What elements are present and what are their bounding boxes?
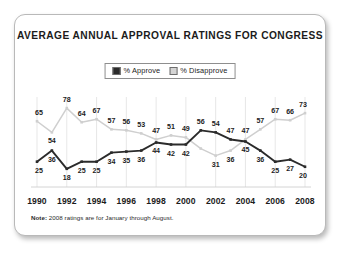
legend-item-approve: % Approve	[113, 66, 161, 75]
value-label: 56	[122, 118, 130, 126]
x-axis-tick-label: 2008	[295, 196, 315, 206]
value-label: 66	[286, 108, 294, 116]
data-point-marker	[125, 150, 128, 153]
data-point-marker	[125, 129, 128, 132]
value-label: 36	[256, 156, 264, 164]
value-label: 20	[299, 172, 307, 180]
value-label: 42	[167, 150, 175, 158]
data-point-marker	[170, 143, 173, 146]
data-point-marker	[140, 132, 143, 135]
data-point-marker	[199, 147, 202, 150]
data-point-marker	[36, 160, 39, 163]
legend-swatch-disapprove	[169, 67, 177, 75]
value-label: 64	[78, 110, 86, 118]
x-axis-tick-label: 1996	[117, 196, 137, 206]
data-point-marker	[140, 149, 143, 152]
value-label: 27	[286, 165, 294, 173]
data-point-marker	[274, 160, 277, 163]
value-label: 31	[212, 161, 220, 169]
value-label: 25	[78, 167, 86, 175]
value-label: 67	[271, 107, 279, 115]
data-point-marker	[304, 165, 307, 168]
data-point-marker	[95, 118, 98, 121]
data-point-marker	[110, 151, 113, 154]
value-label: 44	[152, 147, 160, 155]
data-point-marker	[274, 118, 277, 121]
value-label: 57	[107, 117, 115, 125]
screenshot-root: AVERAGE ANNUAL APPROVAL RATINGS FOR CONG…	[0, 0, 342, 255]
footnote-prefix: Note:	[31, 214, 47, 221]
value-label: 35	[122, 157, 130, 165]
data-point-marker	[65, 167, 68, 170]
data-point-marker	[155, 138, 158, 141]
data-point-marker	[229, 138, 232, 141]
x-axis-tick-label: 2006	[265, 196, 285, 206]
value-label: 42	[182, 150, 190, 158]
value-label: 25	[35, 167, 43, 175]
value-label: 73	[299, 101, 307, 109]
x-axis-tick-label: 1998	[146, 196, 166, 206]
x-axis-tick-label: 1992	[57, 196, 77, 206]
x-axis-tick-label: 1990	[27, 196, 47, 206]
data-point-marker	[95, 160, 98, 163]
data-point-marker	[259, 128, 262, 131]
value-label: 53	[137, 121, 145, 129]
value-label: 18	[63, 174, 71, 182]
value-label: 47	[152, 127, 160, 135]
value-label: 54	[212, 120, 220, 128]
value-label: 36	[137, 156, 145, 164]
data-point-marker	[289, 119, 292, 122]
value-label: 49	[182, 125, 190, 133]
value-label: 67	[93, 107, 101, 115]
data-point-marker	[199, 129, 202, 132]
data-point-marker	[214, 131, 217, 134]
data-point-marker	[65, 107, 68, 110]
x-axis-tick-label: 1994	[87, 196, 107, 206]
data-point-marker	[80, 121, 83, 124]
data-point-marker	[170, 134, 173, 137]
value-label: 36	[227, 156, 235, 164]
data-point-marker	[36, 120, 39, 123]
data-point-marker	[244, 140, 247, 143]
data-point-marker	[80, 160, 83, 163]
legend-item-disapprove: % Disapprove	[169, 66, 227, 75]
value-label: 25	[93, 167, 101, 175]
value-label: 51	[167, 123, 175, 131]
data-point-marker	[289, 158, 292, 161]
legend-label-disapprove: % Disapprove	[180, 66, 227, 75]
x-axis-tick-label: 2000	[176, 196, 196, 206]
data-point-marker	[304, 112, 307, 115]
x-axis-labels: 1990199219941996199820002002200420062008	[31, 196, 311, 210]
chart-footnote: Note: 2008 ratings are for January throu…	[31, 214, 173, 221]
value-label: 54	[48, 137, 56, 145]
line-chart-svg	[31, 97, 311, 195]
data-point-marker	[185, 143, 188, 146]
data-point-marker	[185, 136, 188, 139]
chart-title: AVERAGE ANNUAL APPROVAL RATINGS FOR CONG…	[15, 30, 325, 41]
value-label: 45	[241, 146, 249, 154]
data-point-marker	[110, 128, 113, 131]
footnote-text: 2008 ratings are for January through Aug…	[47, 214, 173, 221]
value-label: 56	[197, 118, 205, 126]
legend-swatch-approve	[113, 67, 121, 75]
value-label: 47	[241, 127, 249, 135]
value-label: 47	[227, 127, 235, 135]
data-point-marker	[51, 131, 54, 134]
data-point-marker	[214, 154, 217, 157]
value-label: 57	[256, 117, 264, 125]
legend-label-approve: % Approve	[124, 66, 161, 75]
data-point-marker	[259, 149, 262, 152]
x-axis-tick-label: 2004	[236, 196, 256, 206]
data-point-marker	[229, 149, 232, 152]
value-label: 78	[63, 96, 71, 104]
data-point-marker	[155, 141, 158, 144]
value-label: 25	[271, 167, 279, 175]
x-axis-tick-label: 2002	[206, 196, 226, 206]
value-label: 36	[48, 156, 56, 164]
value-label: 34	[107, 158, 115, 166]
chart-card: AVERAGE ANNUAL APPROVAL RATINGS FOR CONG…	[14, 14, 326, 236]
value-label: 65	[35, 109, 43, 117]
chart-plot-area: 2536182525343536444242565447453625272065…	[31, 97, 311, 195]
data-point-marker	[51, 149, 54, 152]
chart-legend: % Approve % Disapprove	[105, 63, 236, 79]
